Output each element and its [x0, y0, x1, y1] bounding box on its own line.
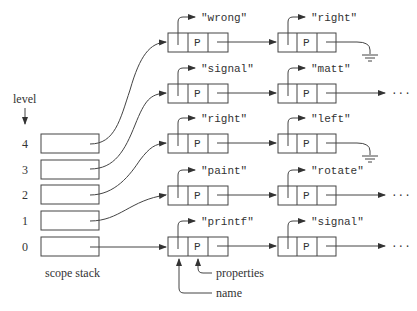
properties-cell: P — [303, 241, 310, 253]
node-name-signal: "signal" — [201, 63, 254, 75]
level-label: level — [13, 92, 37, 106]
level-number-0: 0 — [22, 240, 28, 254]
properties-annotation: properties — [216, 266, 264, 280]
symbol-table-diagram: level 4 3 2 1 0 scope stack P "wrong" P … — [0, 0, 417, 311]
scope-stack-label: scope stack — [45, 266, 100, 280]
ellipsis-icon: ··· — [391, 87, 411, 99]
node-name-wrong: "wrong" — [201, 12, 247, 24]
ellipsis-icon: ··· — [391, 240, 411, 252]
name-annotation: name — [216, 286, 242, 300]
scope-stack-slot-3 — [41, 160, 99, 179]
properties-cell: P — [194, 88, 201, 100]
pointer-level-4 — [90, 42, 166, 144]
properties-cell: P — [303, 88, 310, 100]
list-row-4: P "printf" P "signal" ··· — [168, 216, 411, 256]
properties-cell: P — [194, 241, 201, 253]
node-name-right: "right" — [201, 113, 247, 125]
list-row-3: P "paint" P "rotate" ··· — [168, 165, 411, 205]
node-name-left: "left" — [311, 113, 351, 125]
properties-annotation-arrow — [198, 259, 212, 273]
list-row-0: P "wrong" P "right" — [168, 12, 378, 61]
node-name-printf: "printf" — [201, 216, 254, 228]
properties-cell: P — [194, 138, 201, 150]
node-name-rotate: "rotate" — [311, 165, 364, 177]
pointer-level-3 — [90, 93, 166, 169]
node-name-matt: "matt" — [311, 63, 351, 75]
ellipsis-icon: ··· — [391, 189, 411, 201]
properties-cell: P — [303, 37, 310, 49]
level-number-2: 2 — [22, 188, 28, 202]
level-number-4: 4 — [22, 137, 28, 151]
pointer-level-2 — [90, 143, 166, 195]
properties-cell: P — [194, 37, 201, 49]
properties-cell: P — [303, 190, 310, 202]
node-name-signal: "signal" — [311, 216, 364, 228]
name-annotation-arrow — [179, 259, 212, 293]
list-row-1: P "signal" P "matt" ··· — [168, 63, 411, 103]
pointer-level-1 — [90, 195, 166, 221]
level-number-1: 1 — [22, 214, 28, 228]
ground-icon — [362, 55, 378, 61]
properties-cell: P — [194, 190, 201, 202]
list-row-2: P "right" P "left" — [168, 113, 378, 162]
properties-cell: P — [303, 138, 310, 150]
level-number-3: 3 — [22, 163, 28, 177]
node-name-paint: "paint" — [201, 165, 247, 177]
ground-icon — [362, 156, 378, 162]
node-name-right: "right" — [311, 12, 357, 24]
